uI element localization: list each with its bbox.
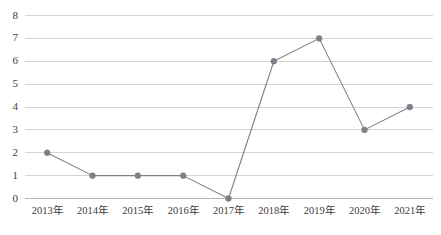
y-axis-tick-label: 6 [2, 55, 18, 66]
y-axis-tick-label: 8 [2, 10, 18, 21]
y-axis-tick-label: 7 [2, 32, 18, 43]
y-axis-tick-label: 4 [2, 101, 18, 112]
y-axis-tick-label: 3 [2, 124, 18, 135]
data-point-marker [226, 196, 232, 202]
line-chart: 012345678 2013年2014年2015年2016年2017年2018年… [0, 0, 441, 235]
chart-plot-area [0, 0, 441, 235]
x-axis-tick-label: 2014年 [70, 205, 115, 217]
data-point-marker [44, 150, 50, 156]
data-point-marker [271, 58, 277, 64]
data-point-marker [316, 35, 322, 41]
y-axis-tick-label: 0 [2, 193, 18, 204]
y-axis-tick-label: 5 [2, 78, 18, 89]
x-axis-tick-label: 2020年 [342, 205, 387, 217]
x-axis-tick-label: 2017年 [206, 205, 251, 217]
data-series [44, 35, 412, 201]
x-axis-tick-label: 2015年 [115, 205, 160, 217]
data-point-marker [135, 173, 141, 179]
data-point-marker [180, 173, 186, 179]
data-point-marker [90, 173, 96, 179]
x-axis-tick-label: 2018年 [251, 205, 296, 217]
y-axis-tick-label: 2 [2, 147, 18, 158]
data-point-marker [407, 104, 413, 110]
x-axis-tick-label: 2013年 [25, 205, 70, 217]
series-line [47, 38, 410, 198]
y-axis-tick-label: 1 [2, 170, 18, 181]
gridlines [25, 16, 433, 199]
x-axis-tick-label: 2021年 [387, 205, 432, 217]
x-axis-tick-label: 2016年 [161, 205, 206, 217]
x-axis-tick-label: 2019年 [297, 205, 342, 217]
data-point-marker [362, 127, 368, 133]
